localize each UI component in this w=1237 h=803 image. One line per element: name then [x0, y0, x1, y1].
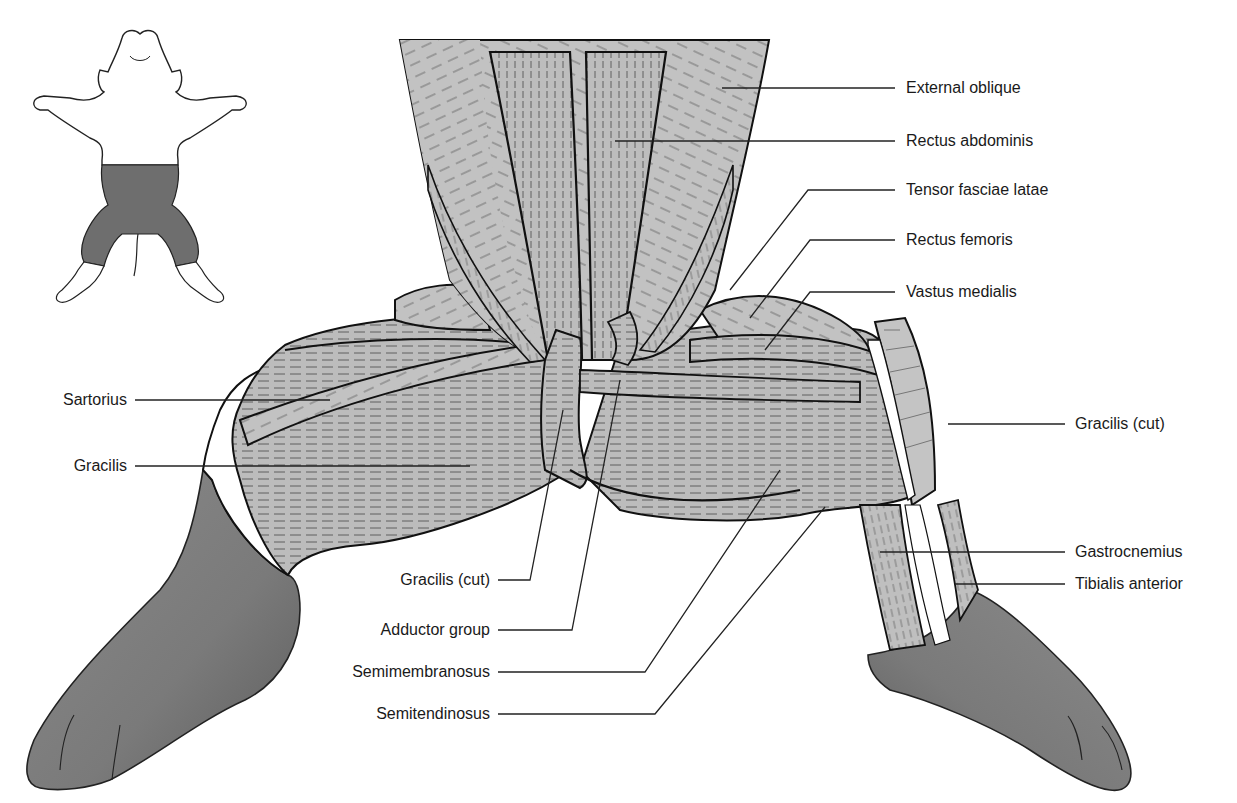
- label-external-oblique: External oblique: [906, 79, 1021, 97]
- label-gracilis-cut-left: Gracilis (cut): [400, 571, 490, 589]
- label-sartorius: Sartorius: [63, 391, 127, 409]
- label-vastus-medialis: Vastus medialis: [906, 283, 1017, 301]
- label-gastrocnemius: Gastrocnemius: [1075, 543, 1183, 561]
- label-rectus-femoris: Rectus femoris: [906, 231, 1013, 249]
- label-tensor-fasciae-latae: Tensor fasciae latae: [906, 181, 1048, 199]
- inset-body-outline: [34, 31, 247, 303]
- label-semimembranosus: Semimembranosus: [352, 663, 490, 681]
- label-rectus-abdominis: Rectus abdominis: [906, 132, 1033, 150]
- label-gracilis-cut-right: Gracilis (cut): [1075, 415, 1165, 433]
- label-semitendinosus: Semitendinosus: [376, 705, 490, 723]
- label-tibialis-anterior: Tibialis anterior: [1075, 575, 1183, 593]
- label-adductor-group: Adductor group: [381, 621, 490, 639]
- anatomy-diagram: External oblique Rectus abdominis Tensor…: [0, 0, 1237, 803]
- label-gracilis: Gracilis: [74, 457, 127, 475]
- muscle-illustration: [0, 0, 1237, 803]
- gracilis-cut-flap-left: [541, 330, 586, 488]
